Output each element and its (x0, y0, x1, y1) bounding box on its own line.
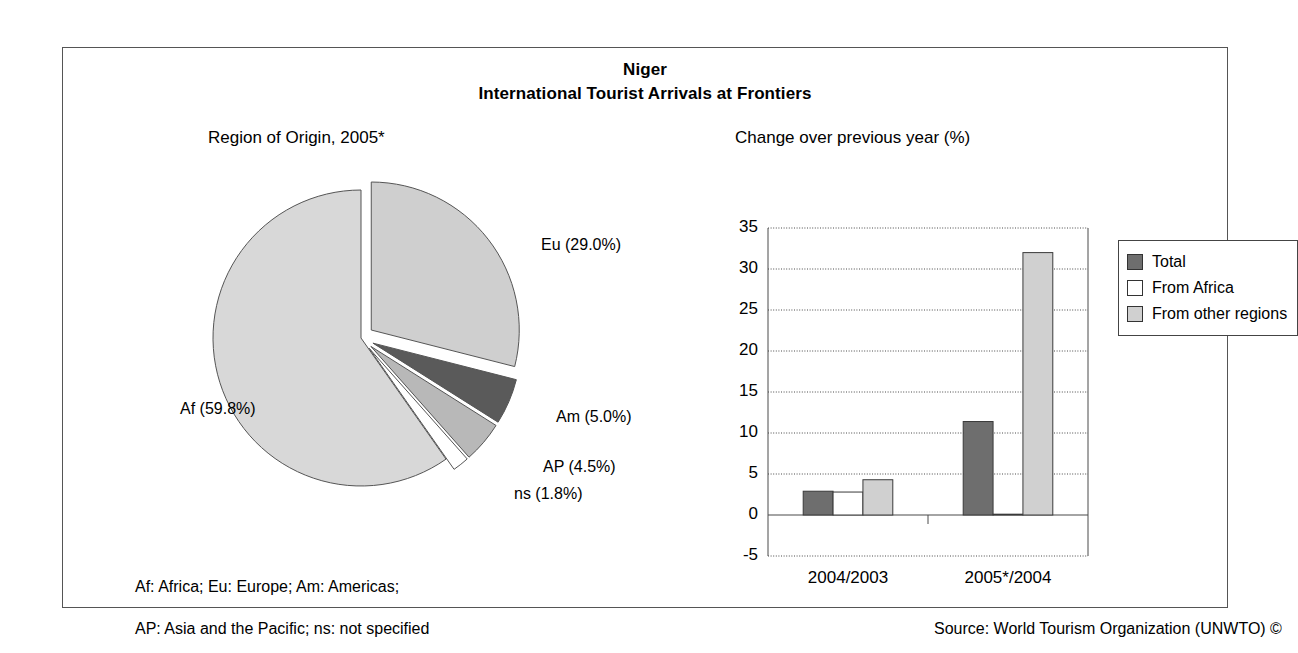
y-tick-label: 30 (716, 258, 758, 278)
pie-chart: Eu (29.0%) Am (5.0%) AP (4.5%) ns (1.8%)… (163, 158, 683, 518)
legend-label: From other regions (1152, 305, 1287, 323)
y-tick-label: 35 (716, 217, 758, 237)
x-tick-label: 2005*/2004 (933, 568, 1083, 588)
bar-total (963, 422, 993, 515)
bar-from-other-regions (863, 480, 893, 515)
bar-chart-svg (703, 158, 1123, 578)
footnote-abbreviations-line2: AP: Asia and the Pacific; ns: not specif… (135, 620, 429, 638)
pie-slices (213, 182, 519, 486)
legend-swatch-icon (1127, 254, 1143, 270)
source-note: Source: World Tourism Organization (UNWT… (934, 620, 1282, 638)
pie-slice-eu (371, 182, 519, 367)
chart-legend: TotalFrom AfricaFrom other regions (1118, 240, 1298, 336)
y-tick-label: 20 (716, 340, 758, 360)
y-tick-label: 25 (716, 299, 758, 319)
pie-label-am: Am (5.0%) (556, 408, 632, 426)
pie-label-af: Af (59.8%) (180, 400, 256, 418)
y-tick-label: -5 (716, 545, 758, 565)
legend-swatch-icon (1127, 280, 1143, 296)
bar-chart: -505101520253035 2004/20032005*/2004 (703, 158, 1123, 578)
pie-label-ap: AP (4.5%) (543, 458, 616, 476)
legend-item: From Africa (1127, 275, 1287, 301)
chart-frame: Niger International Tourist Arrivals at … (62, 47, 1228, 608)
legend-label: Total (1152, 253, 1186, 271)
y-tick-label: 5 (716, 463, 758, 483)
x-tick-label: 2004/2003 (773, 568, 923, 588)
pie-label-eu: Eu (29.0%) (541, 236, 621, 254)
y-tick-label: 15 (716, 381, 758, 401)
page-title: Niger (63, 60, 1227, 80)
bar-from-africa (833, 492, 863, 515)
chart-subtitle: International Tourist Arrivals at Fronti… (63, 84, 1227, 104)
legend-item: Total (1127, 249, 1287, 275)
legend-item: From other regions (1127, 301, 1287, 327)
y-tick-label: 0 (716, 504, 758, 524)
bar-series (803, 253, 1053, 515)
y-tick-label: 10 (716, 422, 758, 442)
pie-chart-title: Region of Origin, 2005* (208, 128, 385, 148)
bar-chart-title: Change over previous year (%) (735, 128, 970, 148)
legend-swatch-icon (1127, 306, 1143, 322)
bar-from-other-regions (1023, 253, 1053, 515)
bar-total (803, 491, 833, 515)
legend-label: From Africa (1152, 279, 1234, 297)
footnote-abbreviations-line1: Af: Africa; Eu: Europe; Am: Americas; (135, 578, 399, 596)
bar-from-africa (993, 514, 1023, 515)
pie-label-ns: ns (1.8%) (514, 485, 582, 503)
